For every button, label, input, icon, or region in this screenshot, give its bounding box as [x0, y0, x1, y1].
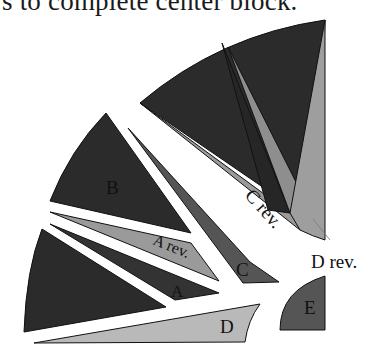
label-c: C: [236, 259, 249, 280]
label-b: B: [106, 177, 119, 198]
label-d-rev: D rev.: [311, 251, 357, 272]
piece-e: [280, 276, 325, 330]
label-a: A: [171, 282, 184, 301]
piece-b: [50, 113, 191, 233]
quilt-block-diagram: B A rev. A C C rev. D D rev. E: [0, 0, 380, 348]
label-e: E: [304, 297, 316, 318]
label-d: D: [220, 316, 234, 337]
